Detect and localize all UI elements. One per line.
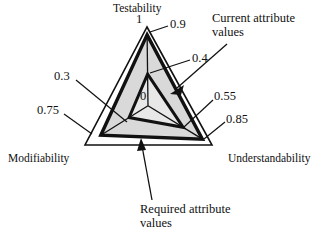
annotation-required-line2: values: [140, 216, 172, 230]
axis-label-understandability: Understandability: [228, 152, 310, 164]
leader-line-tick-09: [150, 26, 168, 32]
annotation-required-attribute-values: Required attribute values: [140, 203, 260, 230]
tick-label-outer-testability: 1: [136, 13, 142, 27]
tick-label-current-testability: 0.4: [192, 52, 208, 66]
leader-line-required-annotation: [142, 146, 152, 200]
tick-label-required-testability: 0.9: [170, 18, 186, 32]
annotation-current-line2: values: [212, 25, 244, 39]
kiviat-diagram-figure: Testability Modifiability Understandabil…: [0, 0, 336, 242]
annotation-current-attribute-values: Current attribute values: [212, 12, 332, 39]
axis-label-modifiability: Modifiability: [8, 152, 69, 164]
tick-label-required-understandability: 0.85: [226, 113, 248, 127]
annotation-current-line1: Current attribute: [212, 11, 295, 25]
tick-label-center-zero: 0: [140, 90, 146, 104]
tick-label-current-understandability: 0.55: [214, 90, 236, 104]
annotation-required-line1: Required attribute: [140, 202, 231, 216]
axis-spoke-testability: [147, 35, 148, 106]
tick-label-required-modifiability: 0.75: [37, 104, 59, 118]
leader-line-tick-075: [64, 114, 92, 134]
tick-label-current-modifiability: 0.3: [54, 70, 70, 84]
leader-line-tick-085: [204, 122, 225, 139]
